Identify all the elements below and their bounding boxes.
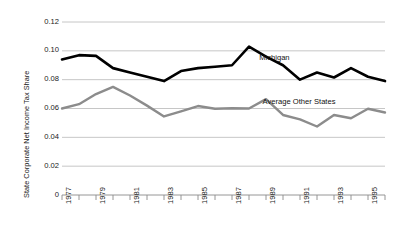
series-lines	[62, 47, 385, 127]
gridlines	[62, 22, 385, 166]
x-tick-label: 1985	[201, 187, 209, 204]
x-tick-label: 1983	[167, 187, 175, 204]
series-line	[62, 47, 385, 82]
y-axis-tick-labels: 0.12 0.10 0.08 0.06 0.04 0.02 0	[34, 0, 59, 244]
y-tick-label: 0.08	[44, 75, 59, 83]
x-tick-label: 1993	[337, 187, 345, 204]
x-tick-label: 1977	[65, 187, 73, 204]
y-tick-label: 0.06	[44, 104, 59, 112]
series-label-michigan: Michigan	[259, 53, 289, 62]
y-tick-label: 0.10	[44, 46, 59, 54]
y-tick-label: 0.02	[44, 162, 59, 170]
x-tick-label: 1989	[269, 187, 277, 204]
x-tick-label: 1979	[99, 187, 107, 204]
series-line	[62, 87, 385, 127]
x-tick-label: 1991	[303, 187, 311, 204]
y-tick-label: 0.12	[44, 18, 59, 26]
x-tick-label: 1995	[371, 187, 379, 204]
y-tick-label: 0	[55, 191, 59, 199]
chart-container: State Corporate Net Income Tax Share 0.1…	[0, 0, 413, 244]
plot-area	[0, 0, 413, 244]
x-tick-label: 1987	[235, 187, 243, 204]
x-tick-label: 1981	[133, 187, 141, 204]
y-axis-title: State Corporate Net Income Tax Share	[21, 18, 33, 198]
y-tick-label: 0.04	[44, 133, 59, 141]
series-label-average-other-states: Average Other States	[263, 97, 336, 106]
